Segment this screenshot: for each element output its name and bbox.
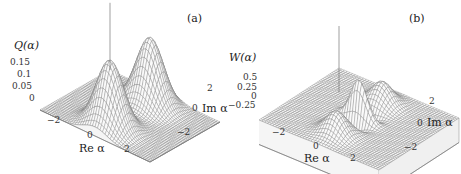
y-tick: 2 bbox=[207, 84, 213, 93]
x-axis-label: Re α bbox=[79, 143, 105, 154]
y-tick: 0 bbox=[417, 119, 423, 128]
x-tick: −2 bbox=[272, 128, 285, 137]
z-tick: 0.5 bbox=[243, 73, 257, 82]
z-tick: 0.15 bbox=[10, 58, 30, 67]
y-axis-label: Im α bbox=[202, 103, 228, 114]
x-tick: −2 bbox=[47, 116, 60, 125]
x-tick: 2 bbox=[350, 154, 356, 163]
y-tick: 0 bbox=[192, 104, 198, 113]
wigner-function-surface bbox=[231, 0, 461, 174]
panel-b-wigner-function: (b) W(α) 0.5 0.25 0 −0.25 −2 0 2 Re α 2 … bbox=[231, 0, 461, 174]
y-tick: −2 bbox=[404, 143, 417, 152]
z-tick: 0.1 bbox=[17, 70, 31, 79]
z-tick: 0.05 bbox=[12, 82, 32, 91]
y-tick: 2 bbox=[429, 97, 435, 106]
x-tick: 0 bbox=[313, 142, 319, 151]
x-axis-label: Re α bbox=[304, 153, 330, 164]
y-axis-label: Im α bbox=[427, 117, 453, 128]
panel-label-a: (a) bbox=[187, 13, 202, 24]
panel-label-b: (b) bbox=[409, 13, 425, 24]
q-function-surface bbox=[0, 0, 230, 174]
panel-a-q-function: (a) Q(α) 0.15 0.1 0.05 0 −2 0 2 Re α 2 0… bbox=[0, 0, 230, 174]
z-tick: 0 bbox=[29, 94, 35, 103]
z-axis-label: Q(α) bbox=[14, 40, 39, 51]
y-tick: −2 bbox=[177, 128, 190, 137]
z-axis-label: W(α) bbox=[229, 52, 256, 63]
x-tick: 0 bbox=[87, 131, 93, 140]
z-tick: −0.25 bbox=[228, 101, 256, 110]
x-tick: 2 bbox=[124, 145, 130, 154]
